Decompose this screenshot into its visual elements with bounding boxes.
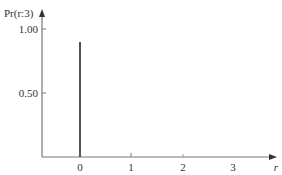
chart: Pr(r:3) 1.00 0.50 0 1 2 3 r — [0, 0, 282, 175]
y-tick-label-1.00: 1.00 — [19, 23, 39, 35]
x-tick-label-2: 2 — [180, 161, 186, 173]
x-tick-label-1: 1 — [128, 161, 134, 173]
x-tick-label-3: 3 — [230, 161, 236, 173]
y-axis-label: Pr(r:3) — [4, 7, 34, 20]
x-axis-arrow-icon — [269, 154, 277, 160]
x-axis-label: r — [274, 161, 279, 173]
x-tick-label-0: 0 — [77, 161, 83, 173]
y-axis-arrow-icon — [39, 9, 45, 17]
y-tick-label-0.50: 0.50 — [19, 87, 39, 99]
